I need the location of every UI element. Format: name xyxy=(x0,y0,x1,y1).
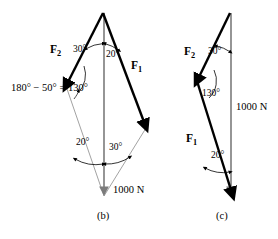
force-diagram-figure: F2 F1 30° 20° 20° 30° 180° − 50° = 130° … xyxy=(0,0,278,239)
panel-b-label-f2: F2 xyxy=(50,44,61,59)
panel-c-resultant-magnitude: 1000 N xyxy=(236,102,267,113)
panel-b-graphics xyxy=(66,13,146,196)
panel-b-label-f1: F1 xyxy=(131,60,142,75)
panel-c-graphics xyxy=(197,13,231,190)
panel-b-angle-top-left: 30° xyxy=(73,45,86,55)
figure-canvas xyxy=(0,0,278,239)
panel-b-angle-bottom-right: 30° xyxy=(109,143,122,153)
panel-b-arc-bottom-left xyxy=(75,159,103,165)
panel-c-angle-top: 30° xyxy=(208,47,221,57)
panel-c-angle-bottom: 20° xyxy=(211,151,224,161)
panel-c-label-f1: F1 xyxy=(186,133,197,148)
panel-c-angle-vertex: 130° xyxy=(202,89,220,99)
panel-c-caption: (c) xyxy=(216,211,228,222)
panel-b-resultant-magnitude: 1000 N xyxy=(113,185,144,196)
panel-b-supplement-equation: 180° − 50° = 130° xyxy=(11,83,88,94)
panel-c-label-f2: F2 xyxy=(184,46,195,61)
panel-c-vector-f2 xyxy=(199,13,230,77)
panel-b-angle-bottom-left: 20° xyxy=(76,138,89,148)
panel-b-caption: (b) xyxy=(97,211,109,222)
panel-b-angle-top-right: 20° xyxy=(106,50,119,60)
